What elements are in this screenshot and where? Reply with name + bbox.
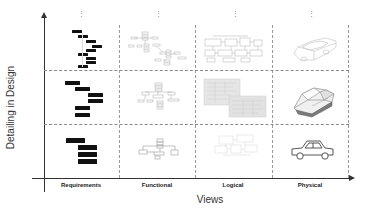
row-divider	[44, 70, 349, 71]
logical-schematic-sketch	[213, 132, 261, 160]
requirements-simple-cell	[60, 126, 118, 176]
requirement-bar	[78, 145, 97, 150]
requirement-bar	[88, 93, 103, 97]
requirement-bar	[86, 57, 96, 60]
requirement-bar	[75, 106, 90, 110]
column-divider	[272, 25, 273, 178]
column-divider	[195, 25, 196, 178]
row-divider	[44, 124, 349, 125]
y-axis-line	[44, 16, 45, 192]
requirement-bar	[75, 113, 90, 117]
x-axis-arrow-icon	[349, 175, 355, 181]
functional-tree-medium	[135, 82, 185, 114]
column-label-logical: Logical	[198, 182, 268, 188]
requirement-bar	[78, 152, 97, 157]
requirements-medium-cell	[60, 72, 118, 122]
requirement-bar	[72, 30, 82, 33]
car-wireframe-icon	[290, 33, 340, 65]
functional-tree-detailed	[128, 30, 188, 66]
more-levels-icon: ⋮	[78, 12, 82, 15]
x-axis-line	[32, 178, 350, 179]
y-axis-arrow-icon	[41, 12, 47, 18]
column-divider	[119, 25, 120, 178]
requirement-bar	[65, 81, 80, 85]
requirement-bar	[86, 49, 96, 52]
car-outline-icon	[290, 138, 336, 164]
column-label-functional: Functional	[122, 182, 192, 188]
requirement-bar	[86, 61, 96, 64]
requirement-bar	[86, 40, 96, 43]
car-3d-model-icon	[288, 80, 340, 118]
requirement-bar	[78, 53, 88, 56]
requirement-connector	[82, 33, 83, 67]
more-levels-icon: ⋮	[308, 12, 312, 15]
more-levels-icon: ⋮	[155, 12, 159, 15]
more-levels-icon: ⋮	[232, 12, 236, 15]
requirement-bar	[75, 87, 90, 91]
x-axis-title: Views	[190, 194, 230, 205]
requirement-bar	[88, 99, 103, 103]
requirement-bar	[78, 35, 88, 38]
requirement-bar	[78, 65, 88, 68]
column-label-requirements: Requirements	[46, 182, 116, 188]
requirement-bar	[78, 159, 97, 164]
logical-schematic-detailed	[203, 34, 265, 64]
column-label-physical: Physical	[275, 182, 345, 188]
requirement-bar	[66, 138, 85, 143]
requirement-bar	[92, 45, 102, 48]
y-axis-title: Detailing in Design	[5, 58, 16, 158]
column-divider	[348, 25, 349, 178]
functional-tree-simple	[138, 138, 183, 162]
logical-block-diagram	[203, 78, 267, 118]
requirements-detailed-cell	[60, 27, 118, 69]
